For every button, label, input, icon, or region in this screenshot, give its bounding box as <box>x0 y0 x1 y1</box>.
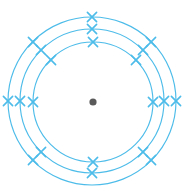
electron-cross-icon <box>46 55 55 64</box>
electron-group <box>3 12 180 177</box>
nucleus-group <box>89 98 96 105</box>
electron-shell-diagram <box>0 0 184 195</box>
nucleus-dot <box>89 98 96 105</box>
electron-cross-icon <box>146 155 155 164</box>
electron-cross-icon <box>28 155 37 164</box>
electron-cross-icon <box>146 37 155 46</box>
electron-cross-icon <box>28 37 37 46</box>
electron-cross-icon <box>131 55 140 64</box>
diagram-canvas <box>0 0 184 195</box>
